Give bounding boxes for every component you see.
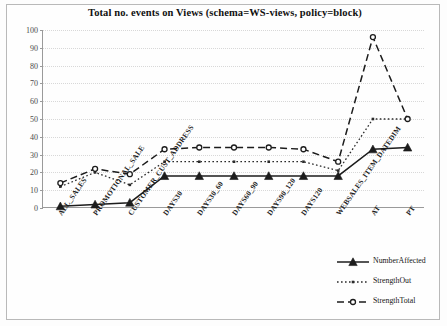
data-point-marker [162,147,167,152]
data-point-marker [266,145,271,150]
data-point-marker [93,166,98,171]
legend-key-small-square-icon [336,274,370,286]
chart-title: Total no. events on Views (schema=WS-vie… [30,7,420,18]
data-point-marker [267,160,270,163]
y-tick-label: 10 [30,186,38,195]
y-tick-label: 100 [26,26,38,35]
chart-figure: Total no. events on Views (schema=WS-vie… [0,0,447,326]
y-tick-label: 20 [30,168,38,177]
data-point-marker [198,160,201,163]
data-point-marker [58,181,63,186]
legend-key-filled-triangle-icon [336,254,370,266]
data-point-marker [337,169,340,172]
data-point-marker [301,147,306,152]
data-point-marker [232,145,237,150]
series-layer [43,30,425,208]
data-point-marker [197,145,202,150]
chart-legend: NumberAffectedStrengthOutStrengthTotal [336,250,440,310]
legend-item[interactable]: StrengthTotal [336,290,440,310]
y-tick-label: 60 [30,97,38,106]
y-tick-label: 0 [34,204,38,213]
legend-label: NumberAffected [373,256,426,265]
data-point-marker [351,300,356,305]
y-tick-label: 90 [30,43,38,52]
data-point-marker [352,281,355,284]
legend-label: StrengthTotal [373,296,415,305]
data-point-marker [405,117,410,122]
data-point-marker [370,35,375,40]
legend-item[interactable]: StrengthOut [336,270,440,290]
legend-label: StrengthOut [373,276,411,285]
data-point-marker [302,160,305,163]
legend-item[interactable]: NumberAffected [336,250,440,270]
data-point-marker [336,159,341,164]
data-point-marker [129,184,132,187]
y-tick-label: 50 [30,115,38,124]
legend-key-open-circle-icon [336,294,370,306]
data-point-marker [372,118,375,121]
plot-area: 0102030405060708090100 [42,30,424,208]
y-tick-label: 80 [30,61,38,70]
y-tick-label: 70 [30,79,38,88]
data-point-marker [233,160,236,163]
y-tick-label: 40 [30,132,38,141]
y-tick-mark [40,208,43,209]
y-tick-label: 30 [30,150,38,159]
